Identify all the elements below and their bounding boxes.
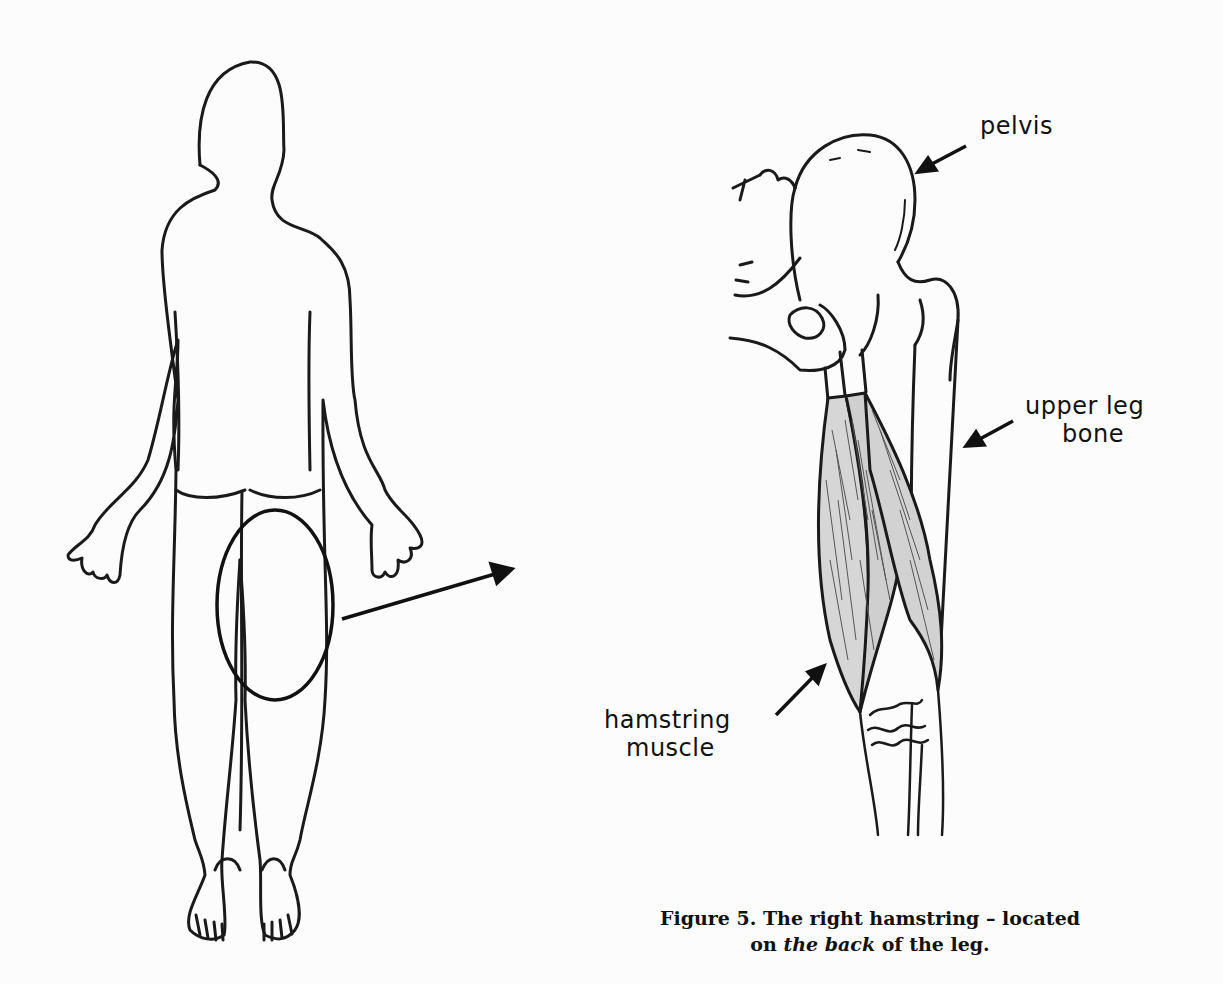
caption-line-2-pre: on (750, 933, 783, 955)
hamstring-muscle-illustration (818, 393, 941, 712)
label-upper-leg-bone-line1: upper leg (1025, 392, 1144, 420)
figure-caption: Figure 5. The right hamstring – located … (600, 905, 1140, 957)
label-hamstring-line2: muscle (604, 734, 731, 762)
body-silhouette (199, 62, 422, 939)
caption-line-2: on the back of the leg. (600, 931, 1140, 957)
knee-illustration (860, 690, 943, 835)
body-silhouette-left (68, 165, 240, 939)
highlight-ellipse (217, 510, 333, 700)
body-outline-illustration (0, 0, 1223, 984)
caption-emphasis: the back (783, 933, 875, 955)
label-upper-leg-bone-line2: bone (1025, 420, 1144, 448)
caption-line-2-post: of the leg. (875, 933, 990, 955)
figure-canvas: pelvis upper leg bone hamstring muscle F… (0, 0, 1223, 984)
label-pelvis: pelvis (980, 112, 1053, 140)
pointer-arrow (342, 564, 512, 619)
label-hamstring-muscle: hamstring muscle (604, 706, 731, 762)
label-arrows (776, 146, 1013, 715)
label-hamstring-line1: hamstring (604, 706, 731, 734)
caption-line-1: Figure 5. The right hamstring – located (600, 905, 1140, 931)
label-upper-leg-bone: upper leg bone (1025, 392, 1144, 448)
